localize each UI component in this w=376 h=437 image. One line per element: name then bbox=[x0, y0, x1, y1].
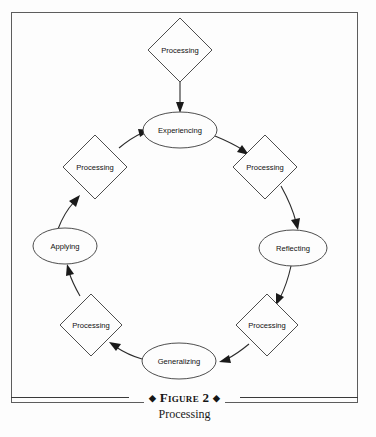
figure-caption: ◆ Figure 2 ◆ Processing bbox=[11, 389, 358, 422]
node-label-proc-upper-right: Processing bbox=[246, 163, 284, 172]
node-label-proc-upper-left: Processing bbox=[76, 163, 114, 172]
arrowhead-proc-top-to-experiencing bbox=[176, 102, 184, 113]
node-label-reflecting: Reflecting bbox=[276, 244, 310, 253]
edge-proc-bl-to-applying bbox=[69, 272, 80, 296]
figure-number-label: ◆ Figure 2 ◆ bbox=[144, 390, 225, 406]
node-proc-top: Processing bbox=[148, 18, 212, 82]
edge-applying-to-proc-ul bbox=[58, 202, 74, 229]
node-label-generalizing: Generalizing bbox=[158, 357, 201, 366]
caption-diamond-left-icon: ◆ bbox=[149, 390, 156, 406]
node-label-proc-top: Processing bbox=[161, 46, 199, 55]
arrowhead-proc-bl-to-applying bbox=[66, 264, 74, 276]
node-label-proc-bottom-right: Processing bbox=[248, 321, 286, 330]
edge-experiencing-to-proc-ur bbox=[215, 136, 243, 150]
node-label-proc-bottom-left: Processing bbox=[72, 321, 110, 330]
node-applying: Applying bbox=[33, 228, 97, 264]
figure-subtitle: Processing bbox=[11, 407, 358, 422]
arrowhead-proc-br-to-generalizing bbox=[219, 355, 231, 363]
node-reflecting: Reflecting bbox=[259, 230, 327, 266]
figure-number-text: Figure 2 bbox=[160, 390, 210, 405]
edge-reflecting-to-proc-br bbox=[280, 266, 291, 298]
arrowhead-reflecting-to-proc-br bbox=[276, 293, 284, 305]
node-experiencing: Experiencing bbox=[143, 112, 217, 148]
node-label-applying: Applying bbox=[50, 242, 79, 251]
edge-proc-br-to-generalizing bbox=[227, 344, 249, 359]
edge-proc-ul-to-experiencing bbox=[119, 133, 142, 148]
node-proc-upper-right: Processing bbox=[233, 135, 297, 199]
caption-diamond-right-icon: ◆ bbox=[213, 390, 220, 406]
node-generalizing: Generalizing bbox=[142, 343, 216, 379]
node-proc-upper-left: Processing bbox=[63, 135, 127, 199]
cycle-diagram: Processing Experiencing Processing Refle… bbox=[0, 0, 376, 437]
caption-rule: ◆ Figure 2 ◆ bbox=[11, 389, 358, 405]
figure-page: Processing Experiencing Processing Refle… bbox=[0, 0, 376, 437]
edge-proc-ur-to-reflecting bbox=[281, 186, 296, 222]
arrowhead-proc-ur-to-reflecting bbox=[291, 218, 300, 230]
edge-generalizing-to-proc-bl bbox=[116, 347, 142, 359]
node-label-experiencing: Experiencing bbox=[158, 126, 202, 135]
